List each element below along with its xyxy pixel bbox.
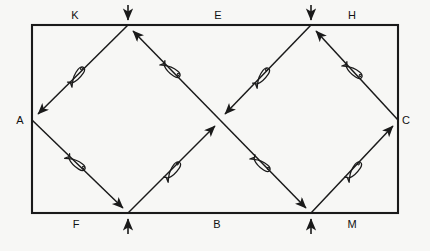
zigzag-diamond-diagram: A K E H C M B F <box>0 0 430 251</box>
node-label-H: H <box>348 9 356 21</box>
node-label-K: K <box>71 9 79 21</box>
node-label-B: B <box>213 218 220 230</box>
figure-canvas: A K E H C M B F <box>0 0 430 251</box>
node-label-C: C <box>402 114 410 126</box>
node-label-F: F <box>73 218 80 230</box>
node-label-A: A <box>16 114 24 126</box>
node-label-M: M <box>347 218 356 230</box>
node-label-E: E <box>214 9 221 21</box>
